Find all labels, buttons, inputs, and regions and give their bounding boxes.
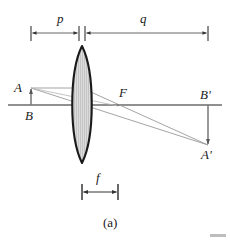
dimension-p <box>31 26 79 41</box>
label-image-distance: q <box>140 12 147 25</box>
label-object-base-B: B <box>25 109 33 122</box>
focal-point-marker <box>117 104 119 106</box>
dimension-q <box>85 26 208 41</box>
label-image-tip-Aprime: A' <box>201 148 212 161</box>
converging-lens <box>72 46 92 163</box>
label-focal-point-F: F <box>119 86 127 99</box>
dimension-f <box>82 184 118 200</box>
ray-diagram-canvas <box>0 0 230 243</box>
ray-parallel-refracted <box>82 88 208 145</box>
corner-artifact <box>210 234 226 237</box>
label-image-base-Bprime: B' <box>200 88 211 101</box>
label-object-tip-A: A <box>14 81 22 94</box>
figure-caption: (a) <box>103 216 117 229</box>
lens-outline <box>72 46 92 163</box>
label-object-distance: p <box>57 12 64 25</box>
label-focal-length-f: f <box>96 171 100 184</box>
optics-figure: p q A B F B' A' f (a) <box>0 0 230 243</box>
